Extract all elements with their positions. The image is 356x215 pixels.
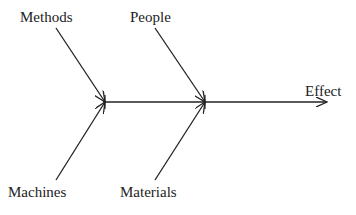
fishbone-diagram: Methods People Machines Materials Effect	[0, 0, 356, 215]
label-effect: Effect	[305, 83, 342, 99]
label-people: People	[130, 9, 171, 25]
bone-people	[155, 28, 205, 102]
label-machines: Machines	[8, 184, 66, 200]
label-materials: Materials	[120, 184, 177, 200]
label-methods: Methods	[20, 9, 73, 25]
diagram-canvas: Methods People Machines Materials Effect	[0, 0, 356, 215]
bone-machines	[56, 102, 105, 180]
bone-methods	[56, 28, 105, 102]
bone-materials	[155, 102, 205, 180]
